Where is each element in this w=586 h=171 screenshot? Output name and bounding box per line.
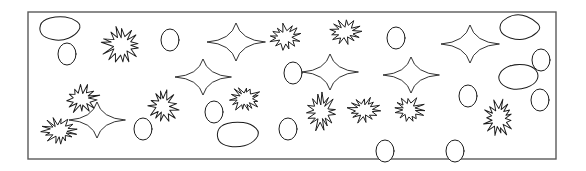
- ellipse-3: [387, 27, 405, 49]
- ellipse-4: [284, 62, 302, 84]
- ellipse-11: [376, 140, 394, 162]
- ellipse-2: [161, 29, 179, 51]
- ellipse-9: [459, 85, 477, 107]
- ellipse-12: [446, 140, 464, 162]
- ellipse-10: [531, 89, 549, 111]
- ellipse-6: [134, 118, 152, 140]
- shapes-svg: [0, 0, 586, 171]
- ellipse-1: [58, 43, 76, 65]
- ellipse-8: [279, 118, 297, 140]
- scene-canvas: [0, 0, 586, 171]
- ellipse-7: [205, 101, 223, 123]
- ellipse-5: [532, 49, 550, 71]
